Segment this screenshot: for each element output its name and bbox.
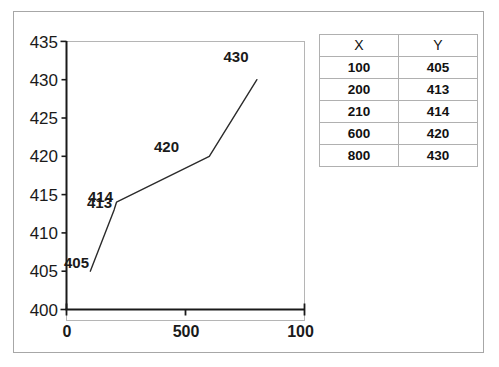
table-cell-x: 600: [320, 123, 399, 145]
y-tick-label: 415: [30, 186, 58, 205]
x-tick-label: 1000: [287, 323, 314, 340]
point-label-430: 430: [223, 48, 248, 65]
table-cell-y: 413: [399, 79, 478, 101]
table-cell-y: 420: [399, 123, 478, 145]
x-tick-label: 0: [63, 323, 72, 340]
table-header-row: X Y: [320, 35, 478, 57]
table-row: 800 430: [320, 145, 478, 167]
y-tick-label: 410: [30, 224, 58, 243]
content-frame: 435 430 425 420 415 410 405 400 0 500 10…: [13, 11, 484, 353]
plot-area-border: [67, 42, 305, 321]
point-label-420: 420: [154, 138, 179, 155]
data-table-container: X Y 100 405 200 413 210 414 600: [319, 34, 477, 167]
table-row: 200 413: [320, 79, 478, 101]
table-cell-y: 405: [399, 57, 478, 79]
table-cell-y: 430: [399, 145, 478, 167]
table-row: 600 420: [320, 123, 478, 145]
y-tick-label: 425: [30, 109, 58, 128]
table-row: 210 414: [320, 101, 478, 123]
y-tick-label: 420: [30, 147, 58, 166]
y-tick-label: 400: [30, 301, 58, 320]
y-tick-label: 430: [30, 71, 58, 90]
chart-canvas: 435 430 425 420 415 410 405 400 0 500 10…: [14, 12, 314, 354]
point-label-405: 405: [64, 254, 89, 271]
data-table: X Y 100 405 200 413 210 414 600: [319, 34, 478, 167]
table-cell-x: 210: [320, 101, 399, 123]
table-row: 100 405: [320, 57, 478, 79]
point-label-414: 414: [88, 188, 114, 205]
table-cell-x: 800: [320, 145, 399, 167]
y-tick-label: 405: [30, 262, 58, 281]
y-tick-label: 435: [30, 33, 58, 52]
line-chart: 435 430 425 420 415 410 405 400 0 500 10…: [14, 12, 314, 354]
table-header-y: Y: [399, 35, 478, 57]
table-header-x: X: [320, 35, 399, 57]
table-cell-y: 414: [399, 101, 478, 123]
table-cell-x: 200: [320, 79, 399, 101]
x-tick-label: 500: [173, 323, 200, 340]
table-cell-x: 100: [320, 57, 399, 79]
